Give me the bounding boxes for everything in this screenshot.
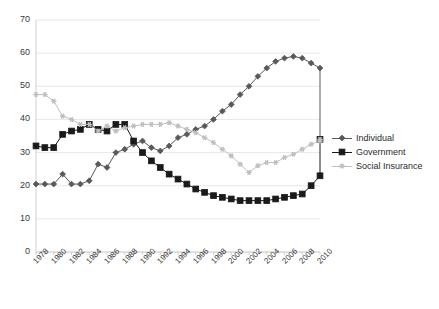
data-point-individual (122, 146, 128, 152)
legend-item-social-insurance[interactable]: Social Insurance (332, 159, 423, 173)
data-point-government (308, 183, 314, 189)
data-point-individual (308, 60, 314, 66)
data-point-government (69, 128, 75, 134)
data-point-social-insurance (158, 122, 163, 127)
data-point-government (264, 198, 270, 204)
y-axis-tick-label: 40 (6, 114, 30, 123)
data-point-government (175, 176, 181, 182)
data-point-government (33, 143, 39, 149)
legend-item-government[interactable]: Government (332, 145, 423, 159)
data-point-government (202, 189, 208, 195)
data-point-government (219, 194, 225, 200)
data-point-government (157, 165, 163, 171)
legend-item-label: Social Insurance (356, 161, 423, 171)
data-point-government (140, 150, 146, 156)
data-point-individual (95, 161, 101, 167)
data-point-government (122, 122, 128, 128)
data-point-government (282, 194, 288, 200)
data-point-government (77, 126, 83, 132)
data-point-government (131, 138, 137, 144)
data-point-individual (290, 54, 296, 60)
data-point-government (228, 196, 234, 202)
legend-marker-star-icon (332, 161, 352, 171)
data-point-government (237, 198, 243, 204)
data-point-social-insurance (149, 122, 154, 127)
legend-marker-diamond-icon (332, 133, 352, 143)
data-point-government (42, 145, 48, 151)
data-point-government (51, 145, 57, 151)
data-point-social-insurance (175, 124, 180, 129)
y-axis-tick-label: 10 (6, 214, 30, 223)
data-point-individual (299, 55, 305, 61)
data-point-government (255, 198, 261, 204)
y-axis-tick-label: 20 (6, 181, 30, 190)
data-point-government (184, 181, 190, 187)
data-point-government (166, 171, 172, 177)
data-point-government (211, 193, 217, 199)
legend-item-label: Government (356, 147, 406, 157)
legend-item-label: Individual (356, 133, 394, 143)
data-point-individual (104, 165, 110, 171)
legend-marker-square-icon (332, 147, 352, 157)
y-axis-tick-label: 0 (6, 247, 30, 256)
data-point-government (273, 196, 279, 202)
data-point-individual (317, 65, 323, 71)
data-point-social-insurance (140, 122, 145, 127)
y-axis-tick-label: 50 (6, 81, 30, 90)
data-point-government (317, 173, 323, 179)
data-point-government (193, 186, 199, 192)
data-point-government (290, 193, 296, 199)
data-point-social-insurance (264, 160, 269, 165)
y-axis-tick-label: 70 (6, 15, 30, 24)
data-point-government (148, 158, 154, 164)
data-point-government (299, 191, 305, 197)
legend-item-individual[interactable]: Individual (332, 131, 423, 145)
data-point-social-insurance (60, 114, 65, 119)
chart-legend: IndividualGovernmentSocial Insurance (332, 131, 423, 173)
data-point-individual (184, 131, 190, 137)
data-point-government (104, 128, 110, 134)
data-point-individual (86, 178, 92, 184)
data-point-social-insurance (131, 124, 136, 129)
chart-container: 010203040506070 197819801982198419861988… (0, 0, 439, 309)
y-axis-tick-label: 60 (6, 48, 30, 57)
data-point-individual (282, 55, 288, 61)
data-point-government (246, 198, 252, 204)
data-point-government (113, 122, 119, 128)
data-point-individual (113, 150, 119, 156)
data-point-government (60, 131, 66, 137)
y-axis-tick-label: 30 (6, 148, 30, 157)
data-point-social-insurance (167, 120, 172, 125)
